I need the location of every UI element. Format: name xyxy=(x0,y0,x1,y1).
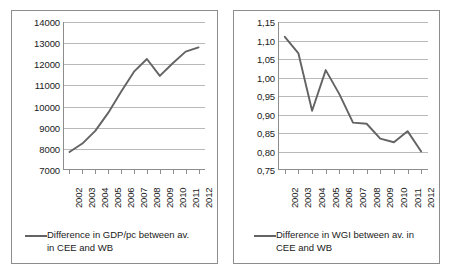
x-axis-tick-label: 2007 xyxy=(138,188,149,208)
x-axis-tick-label: 2011 xyxy=(190,188,201,208)
y-axis-tick-label: 12000 xyxy=(34,59,60,70)
x-axis-tick-label: 2005 xyxy=(330,188,341,208)
gdp-chart-series-line xyxy=(63,22,205,170)
y-axis-tick-label: 0,80 xyxy=(257,146,275,157)
y-axis-tick-label: 14000 xyxy=(34,17,60,28)
x-axis-tick-label: 2010 xyxy=(177,188,188,208)
gdp-chart-legend: Difference in GDP/pc between av. in CEE … xyxy=(25,229,197,254)
wgi-chart-x-axis-labels: 2002200320042005200620072008200920102011… xyxy=(278,174,428,214)
x-axis-tick-label: 2010 xyxy=(398,188,409,208)
wgi-chart-legend: Difference in WGI between av. in CEE and… xyxy=(254,229,426,254)
wgi-chart-inner: 0,750,800,850,900,951,001,051,101,152002… xyxy=(234,11,439,263)
x-axis-tick-label: 2003 xyxy=(302,188,313,208)
y-axis-line xyxy=(63,22,64,170)
x-axis-tick-label: 2002 xyxy=(73,188,84,208)
gdp-chart-x-axis-labels: 2002200320042005200620072008200920102011… xyxy=(63,174,205,214)
x-axis-tick-label: 2007 xyxy=(357,188,368,208)
x-axis-tick-label: 2012 xyxy=(425,188,436,208)
gdp-chart-panel: 7000800090001000011000120001300014000200… xyxy=(11,10,218,264)
y-axis-tick-label: 0,85 xyxy=(257,128,275,139)
y-axis-tick-label: 1,15 xyxy=(257,17,275,28)
x-axis-tick-label: 2011 xyxy=(412,188,423,208)
x-axis-tick-label: 2009 xyxy=(164,188,175,208)
y-axis-tick-label: 11000 xyxy=(35,80,60,91)
x-axis-tick-label: 2006 xyxy=(343,188,354,208)
x-axis-tick-label: 2002 xyxy=(289,188,300,208)
gridline xyxy=(278,96,428,97)
wgi-chart-plot-area xyxy=(278,22,428,170)
gridline xyxy=(278,152,428,153)
x-axis-tick-label: 2005 xyxy=(112,188,123,208)
gridline xyxy=(63,107,205,108)
y-axis-tick-label: 0,95 xyxy=(257,91,275,102)
gridline xyxy=(63,43,205,44)
gridline xyxy=(63,128,205,129)
gridline xyxy=(63,22,205,23)
gdp-chart-y-axis-labels: 7000800090001000011000120001300014000 xyxy=(12,22,60,170)
gridline xyxy=(63,149,205,150)
gdp-chart-inner: 7000800090001000011000120001300014000200… xyxy=(12,11,217,263)
y-axis-tick-label: 8000 xyxy=(39,143,60,154)
y-axis-tick-label: 0,75 xyxy=(257,165,275,176)
charts-container: 7000800090001000011000120001300014000200… xyxy=(0,0,450,274)
x-axis-tick-label: 2012 xyxy=(203,188,214,208)
gridline xyxy=(63,64,205,65)
legend-line-swatch xyxy=(254,235,276,237)
gridline xyxy=(278,41,428,42)
legend-line-swatch xyxy=(25,235,47,237)
x-axis-tick-label: 2008 xyxy=(151,188,162,208)
gridline xyxy=(278,78,428,79)
gridline xyxy=(278,59,428,60)
y-axis-tick-label: 0,90 xyxy=(257,109,275,120)
gridline xyxy=(63,85,205,86)
x-axis-tick-label: 2004 xyxy=(99,188,110,208)
y-axis-tick-label: 1,00 xyxy=(257,72,275,83)
x-axis-tick-label: 2003 xyxy=(86,188,97,208)
y-axis-tick-label: 7000 xyxy=(39,165,60,176)
x-axis-tick-label: 2009 xyxy=(384,188,395,208)
y-axis-tick-label: 9000 xyxy=(39,122,60,133)
gridline xyxy=(278,22,428,23)
wgi-chart-panel: 0,750,800,850,900,951,001,051,101,152002… xyxy=(233,10,440,264)
x-axis-tick-label: 2004 xyxy=(316,188,327,208)
gdp-chart-plot-area xyxy=(63,22,205,170)
gridline xyxy=(278,115,428,116)
y-axis-tick-label: 13000 xyxy=(34,38,60,49)
wgi-chart-y-axis-labels: 0,750,800,850,900,951,001,051,101,15 xyxy=(234,22,275,170)
legend-label: Difference in WGI between av. in CEE and… xyxy=(276,229,426,254)
x-axis-tick-label: 2008 xyxy=(371,188,382,208)
y-axis-tick-label: 1,05 xyxy=(257,54,275,65)
legend-label: Difference in GDP/pc between av. in CEE … xyxy=(47,229,197,254)
x-axis-tick-label: 2006 xyxy=(125,188,136,208)
gridline xyxy=(278,133,428,134)
y-axis-line xyxy=(278,22,279,170)
y-axis-tick-label: 10000 xyxy=(34,101,60,112)
y-axis-tick-label: 1,10 xyxy=(257,35,275,46)
